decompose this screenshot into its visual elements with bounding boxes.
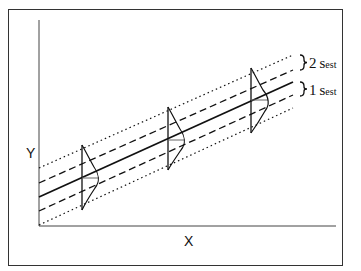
band-label-2s: 2sest — [309, 55, 337, 71]
y-axis-label: Y — [26, 145, 36, 161]
distribution-curve-right — [251, 68, 268, 133]
distribution-curve-middle — [168, 107, 184, 170]
brace-1s — [300, 82, 307, 96]
x-axis-label: X — [184, 233, 194, 249]
regression-diagram: Y X 2sest 1sest — [0, 0, 361, 271]
lower-2s-band — [39, 108, 293, 225]
distribution-curve-left — [82, 145, 99, 210]
band-label-1s: 1sest — [309, 82, 337, 98]
upper-2s-band — [39, 55, 293, 168]
lower-1s-band — [39, 95, 293, 211]
regression-line — [39, 82, 293, 197]
brace-2s — [300, 55, 307, 70]
